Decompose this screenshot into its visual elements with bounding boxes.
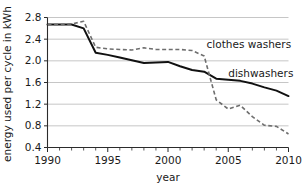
x-tick-label: 2005 <box>215 154 242 166</box>
x-tick-label: 1990 <box>34 154 61 166</box>
x-tick-label: 2000 <box>155 154 182 166</box>
x-tick-label: 1995 <box>94 154 121 166</box>
chart-container: 0.40.81.21.62.02.42.8 199019952000200520… <box>0 0 303 185</box>
y-tick-label: 0.8 <box>25 119 42 131</box>
series-annotation: dishwashers <box>228 67 293 79</box>
series-annotations: clothes washersdishwashers <box>207 38 294 79</box>
line-chart: 0.40.81.21.62.02.42.8 199019952000200520… <box>0 0 303 185</box>
y-tick-label: 1.6 <box>25 76 42 88</box>
y-tick-label: 2.0 <box>25 54 42 66</box>
x-axis-title: year <box>156 171 180 183</box>
series-line-dishwashers <box>48 25 289 97</box>
y-tick-label: 1.2 <box>25 98 42 110</box>
series-annotation: clothes washers <box>207 38 292 50</box>
x-tick-label: 2010 <box>275 154 302 166</box>
y-axis-title: energy used per cycle in kWh <box>1 6 13 162</box>
y-tick-label: 2.4 <box>25 33 42 45</box>
y-tick-label: 0.4 <box>25 141 42 153</box>
y-tick-label: 2.8 <box>25 11 42 23</box>
y-tick-labels: 0.40.81.21.62.02.42.8 <box>25 11 42 153</box>
x-tick-labels: 19901995200020052010 <box>34 154 302 166</box>
